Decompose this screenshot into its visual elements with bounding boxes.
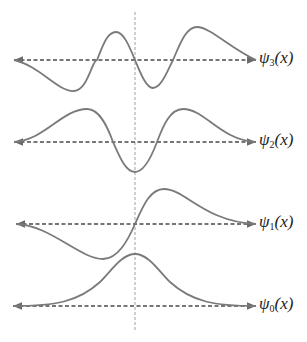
- label-psi2: ψ2(x): [259, 130, 293, 150]
- label-psi1: ψ1(x): [259, 212, 293, 232]
- label-psi0: ψ0(x): [259, 294, 293, 314]
- wavefunction-diagram: ψ3(x) ψ2(x) ψ1(x) ψ0(x): [0, 0, 307, 342]
- curve-psi3: [14, 27, 256, 91]
- label-psi3: ψ3(x): [259, 48, 293, 68]
